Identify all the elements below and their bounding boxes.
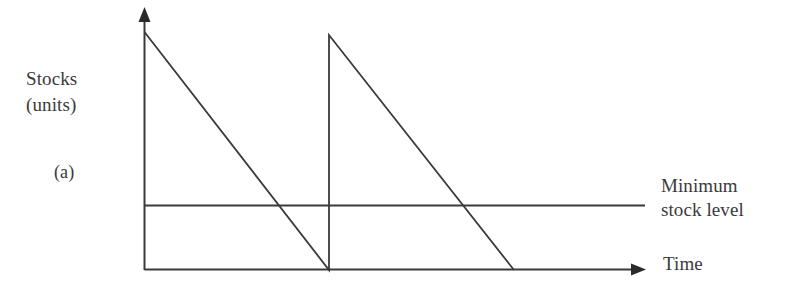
stock-level-sawtooth-chart: [0, 0, 789, 288]
minimum-stock-level-label-line1: Minimum: [661, 175, 738, 196]
x-axis: [145, 264, 647, 276]
stock-level-sawtooth-line: [145, 32, 515, 270]
panel-label: (a): [54, 160, 74, 184]
minimum-stock-level-label-line2: stock level: [661, 199, 744, 220]
y-axis: [139, 7, 151, 270]
minimum-stock-level-label: Minimumstock level: [661, 174, 744, 222]
y-axis-label-line1: Stocks: [26, 68, 77, 89]
y-axis-arrow-icon: [139, 7, 151, 22]
y-axis-label-line2: (units): [26, 94, 76, 115]
x-axis-arrow-icon: [631, 264, 646, 276]
figure-container: Stocks(units) (a) Minimumstock level Tim…: [0, 0, 789, 288]
y-axis-label: Stocks(units): [26, 66, 77, 118]
x-axis-label: Time: [663, 252, 703, 276]
